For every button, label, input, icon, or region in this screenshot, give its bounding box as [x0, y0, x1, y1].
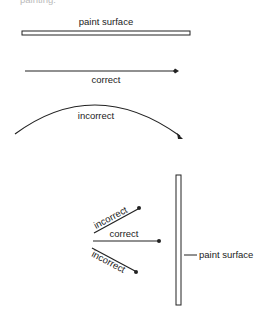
arrowhead-icon [177, 133, 183, 139]
arrowhead-icon [137, 206, 141, 210]
arrowhead-icon [157, 239, 161, 243]
correct-label-middle: correct [109, 228, 138, 239]
paint-surface-label-top: paint surface [79, 16, 133, 27]
incorrect-label: incorrect [78, 110, 115, 121]
panel-horizontal: paint surface correct incorrect [15, 16, 190, 139]
incorrect-label-lower: incorrect [90, 248, 128, 275]
paint-surface-label-side: paint surface [199, 249, 253, 260]
correct-label: correct [91, 74, 120, 85]
arrowhead-icon [173, 69, 179, 74]
paint-surface-horizontal [22, 31, 190, 35]
arrowhead-icon [134, 270, 138, 274]
spray-technique-diagram: paint surface correct incorrect paint su… [0, 0, 276, 314]
panel-vertical: paint surface incorrect correct incorrec… [90, 175, 253, 305]
paint-surface-vertical [176, 175, 181, 305]
